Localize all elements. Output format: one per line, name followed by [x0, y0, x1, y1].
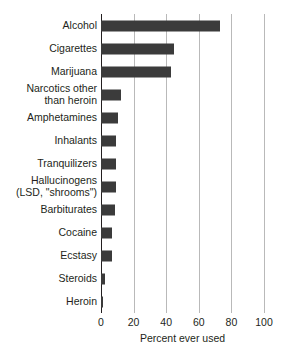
bar [101, 66, 171, 77]
bar [101, 158, 116, 169]
bar [101, 204, 115, 215]
bar [101, 135, 116, 146]
x-tick-label: 0 [98, 316, 104, 329]
category-label: Ecstasy [0, 250, 97, 262]
bar [101, 89, 121, 100]
bar [101, 43, 174, 54]
bar-row [101, 290, 264, 313]
bar-row [101, 175, 264, 198]
x-axis-title: Percent ever used [101, 332, 264, 345]
bar [101, 227, 112, 238]
bar-row [101, 152, 264, 175]
bar-row [101, 244, 264, 267]
x-tick-label: 100 [255, 316, 273, 329]
bar [101, 273, 105, 284]
bar-chart-figure: AlcoholCigarettesMarijuanaNarcotics othe… [0, 0, 287, 359]
bar-row [101, 129, 264, 152]
x-tick-label: 40 [160, 316, 172, 329]
bar-row [101, 267, 264, 290]
category-label: Steroids [0, 273, 97, 285]
category-label: Cocaine [0, 227, 97, 239]
category-label: Narcotics other than heroin [0, 83, 97, 106]
bar [101, 250, 112, 261]
bar-row [101, 198, 264, 221]
bar-row [101, 221, 264, 244]
bar-row [101, 37, 264, 60]
category-label: Cigarettes [0, 43, 97, 55]
x-tick-label: 20 [128, 316, 140, 329]
category-label: Marijuana [0, 66, 97, 78]
category-label: Hallucinogens (LSD, "shrooms") [0, 175, 97, 198]
bar [101, 20, 220, 31]
x-axis-tick-labels: 020406080100 [101, 316, 264, 330]
bar [101, 181, 116, 192]
category-label: Inhalants [0, 135, 97, 147]
bar [101, 112, 118, 123]
plot-area [101, 14, 264, 313]
x-tick-label: 80 [226, 316, 238, 329]
category-label: Barbiturates [0, 204, 97, 216]
category-label: Tranquilizers [0, 158, 97, 170]
category-label: Heroin [0, 296, 97, 308]
bar [101, 296, 103, 307]
bar-row [101, 83, 264, 106]
gridline-100 [264, 14, 265, 313]
category-label: Amphetamines [0, 112, 97, 124]
bar-row [101, 60, 264, 83]
x-tick-label: 60 [193, 316, 205, 329]
bars-container [101, 14, 264, 313]
bar-row [101, 14, 264, 37]
category-label: Alcohol [0, 20, 97, 32]
category-axis-labels: AlcoholCigarettesMarijuanaNarcotics othe… [0, 14, 97, 313]
bar-row [101, 106, 264, 129]
